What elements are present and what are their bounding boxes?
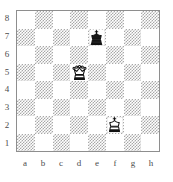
rank-label-5: 5 (0, 63, 14, 81)
square-f1[interactable] (106, 134, 124, 152)
square-d6[interactable] (70, 46, 88, 64)
rank-label-2: 2 (0, 117, 14, 135)
black-king-icon[interactable] (88, 29, 106, 47)
square-b3[interactable] (35, 99, 53, 117)
square-c6[interactable] (53, 46, 71, 64)
file-label-f: f (106, 155, 124, 171)
square-h4[interactable] (141, 81, 159, 99)
square-a6[interactable] (17, 46, 35, 64)
square-b5[interactable] (35, 64, 53, 82)
rank-labels: 8 7 6 5 4 3 2 1 (0, 10, 14, 152)
square-h8[interactable] (141, 11, 159, 29)
square-e6[interactable] (88, 46, 106, 64)
rank-label-8: 8 (0, 10, 14, 28)
square-c1[interactable] (53, 134, 71, 152)
square-b1[interactable] (35, 134, 53, 152)
square-e3[interactable] (88, 99, 106, 117)
square-b2[interactable] (35, 116, 53, 134)
square-c2[interactable] (53, 116, 71, 134)
square-a5[interactable] (17, 64, 35, 82)
rank-label-1: 1 (0, 134, 14, 152)
square-c3[interactable] (53, 99, 71, 117)
square-e8[interactable] (88, 11, 106, 29)
file-label-g: g (124, 155, 142, 171)
square-d1[interactable] (70, 134, 88, 152)
square-c7[interactable] (53, 29, 71, 47)
square-f4[interactable] (106, 81, 124, 99)
white-king-icon[interactable] (106, 116, 124, 134)
square-h1[interactable] (141, 134, 159, 152)
square-d4[interactable] (70, 81, 88, 99)
file-label-b: b (34, 155, 52, 171)
file-label-d: d (70, 155, 88, 171)
square-h5[interactable] (141, 64, 159, 82)
square-g7[interactable] (124, 29, 142, 47)
square-f8[interactable] (106, 11, 124, 29)
square-e5[interactable] (88, 64, 106, 82)
file-label-c: c (52, 155, 70, 171)
square-a4[interactable] (17, 81, 35, 99)
square-b6[interactable] (35, 46, 53, 64)
square-f6[interactable] (106, 46, 124, 64)
rank-label-3: 3 (0, 99, 14, 117)
square-h3[interactable] (141, 99, 159, 117)
square-g4[interactable] (124, 81, 142, 99)
square-b7[interactable] (35, 29, 53, 47)
rank-label-7: 7 (0, 28, 14, 46)
square-e7[interactable] (88, 29, 106, 47)
square-f7[interactable] (106, 29, 124, 47)
square-c4[interactable] (53, 81, 71, 99)
square-d7[interactable] (70, 29, 88, 47)
chess-diagram: 8 7 6 5 4 3 2 1 a b c d e f g h (0, 0, 173, 182)
file-labels: a b c d e f g h (16, 155, 160, 171)
file-label-e: e (88, 155, 106, 171)
square-a7[interactable] (17, 29, 35, 47)
square-a2[interactable] (17, 116, 35, 134)
square-b4[interactable] (35, 81, 53, 99)
rank-label-6: 6 (0, 46, 14, 64)
square-c5[interactable] (53, 64, 71, 82)
square-e4[interactable] (88, 81, 106, 99)
square-h7[interactable] (141, 29, 159, 47)
square-a3[interactable] (17, 99, 35, 117)
square-g3[interactable] (124, 99, 142, 117)
square-d3[interactable] (70, 99, 88, 117)
rank-label-4: 4 (0, 81, 14, 99)
file-label-h: h (142, 155, 160, 171)
square-b8[interactable] (35, 11, 53, 29)
square-f5[interactable] (106, 64, 124, 82)
square-g1[interactable] (124, 134, 142, 152)
square-f2[interactable] (106, 116, 124, 134)
file-label-a: a (16, 155, 34, 171)
square-f3[interactable] (106, 99, 124, 117)
square-e2[interactable] (88, 116, 106, 134)
square-e1[interactable] (88, 134, 106, 152)
square-g6[interactable] (124, 46, 142, 64)
square-a8[interactable] (17, 11, 35, 29)
chess-board[interactable] (16, 10, 160, 152)
square-h6[interactable] (141, 46, 159, 64)
square-g8[interactable] (124, 11, 142, 29)
square-d5[interactable] (70, 64, 88, 82)
white-queen-icon[interactable] (70, 64, 88, 82)
square-g5[interactable] (124, 64, 142, 82)
square-c8[interactable] (53, 11, 71, 29)
square-a1[interactable] (17, 134, 35, 152)
square-d2[interactable] (70, 116, 88, 134)
square-d8[interactable] (70, 11, 88, 29)
square-g2[interactable] (124, 116, 142, 134)
square-h2[interactable] (141, 116, 159, 134)
